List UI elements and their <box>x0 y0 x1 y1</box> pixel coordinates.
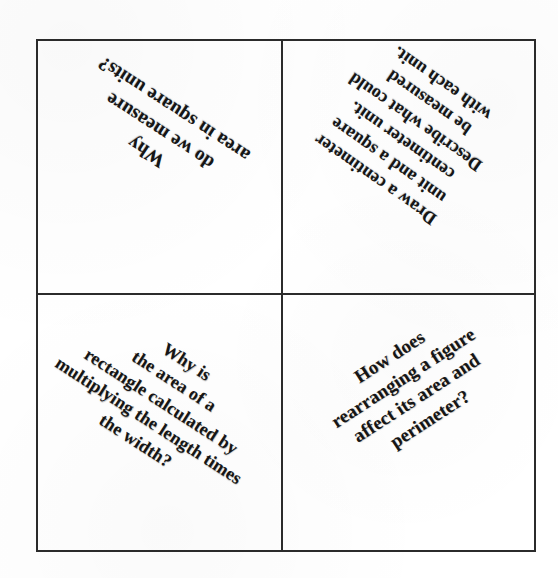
grid-cell-top-left[interactable]: Why do we measure area in square units? <box>38 41 281 293</box>
question-text-top-left: Why do we measure area in square units? <box>52 42 268 219</box>
grid-frame: Why do we measure area in square units? … <box>36 39 536 552</box>
grid-cell-bottom-right[interactable]: How does rearranging a figure affect its… <box>283 295 534 550</box>
grid-cell-bottom-left[interactable]: Why is the area of a rectangle calculate… <box>38 295 281 550</box>
question-text-bottom-left: Why is the area of a rectangle calculate… <box>38 295 281 511</box>
grid-cell-top-right[interactable]: Draw a centimeter unit and a square cent… <box>283 41 534 293</box>
scanned-page: Why do we measure area in square units? … <box>0 0 558 578</box>
question-text-bottom-right: How does rearranging a figure affect its… <box>283 295 534 495</box>
question-text-top-right: Draw a centimeter unit and a square cent… <box>283 41 534 256</box>
